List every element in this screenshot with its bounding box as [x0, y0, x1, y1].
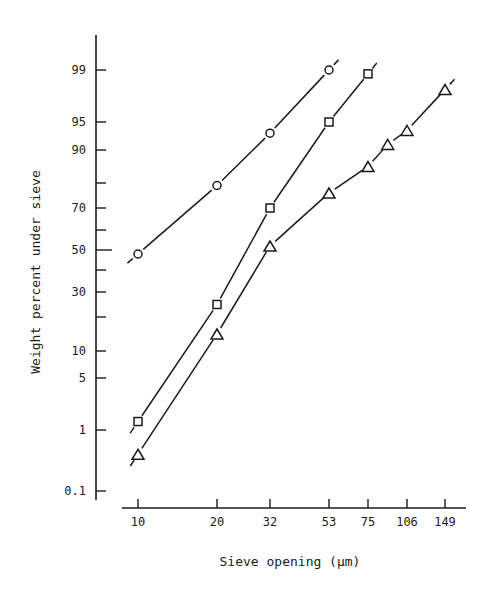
triangle-marker-icon: [264, 241, 276, 251]
x-tick-label: 10: [131, 515, 145, 529]
series-segment: [274, 128, 325, 202]
series-segment: [222, 138, 265, 180]
circle-marker-icon: [134, 250, 142, 258]
series-circle: [127, 60, 338, 263]
circle-marker-icon: [213, 182, 221, 190]
square-marker-icon: [266, 204, 274, 212]
x-tick-label: 75: [361, 515, 375, 529]
triangle-marker-icon: [211, 329, 223, 339]
series-segment: [335, 170, 362, 189]
triangle-marker-icon: [401, 125, 413, 135]
circle-marker-icon: [325, 66, 333, 74]
x-axis-title: Sieve opening (μm): [220, 554, 361, 569]
series-segment: [142, 340, 213, 449]
series-segment: [275, 198, 324, 242]
y-axis-title: Weight percent under sieve: [28, 170, 43, 374]
probability-chart: 0.11510305070909599 1020325375106149 Wei…: [0, 0, 488, 600]
series-triangle: [130, 79, 454, 466]
y-tick-label: 10: [72, 344, 86, 358]
y-tick-label: 1: [79, 423, 86, 437]
x-tick-label: 53: [322, 515, 336, 529]
circle-marker-icon: [266, 129, 274, 137]
x-tick-label: 20: [210, 515, 224, 529]
series-extension: [372, 63, 376, 68]
y-tick-label: 5: [79, 371, 86, 385]
y-axis: 0.11510305070909599: [64, 35, 112, 500]
series-extension: [334, 60, 339, 65]
series-segment: [142, 310, 213, 415]
x-tick-label: 32: [263, 515, 277, 529]
y-tick-label: 70: [72, 201, 86, 215]
series-extension: [130, 427, 134, 433]
y-tick-label: 30: [72, 285, 86, 299]
series-layer: [127, 60, 454, 466]
series-segment: [412, 95, 440, 126]
series-segment: [373, 150, 383, 162]
square-marker-icon: [134, 418, 142, 426]
triangle-marker-icon: [382, 139, 394, 149]
series-extension: [127, 259, 132, 264]
y-tick-label: 99: [72, 63, 86, 77]
square-marker-icon: [213, 301, 221, 309]
triangle-marker-icon: [323, 188, 335, 198]
triangle-marker-icon: [132, 449, 144, 459]
x-tick-label: 149: [434, 515, 456, 529]
y-tick-label: 50: [72, 243, 86, 257]
y-tick-label: 95: [72, 115, 86, 129]
series-extension: [130, 460, 134, 466]
triangle-marker-icon: [439, 85, 451, 95]
y-tick-label: 0.1: [64, 484, 86, 498]
series-segment: [220, 214, 266, 298]
square-marker-icon: [364, 70, 372, 78]
x-tick-label: 106: [396, 515, 418, 529]
series-segment: [275, 75, 324, 128]
series-segment: [333, 79, 363, 116]
series-extension: [450, 79, 455, 84]
x-axis: 1020325375106149: [122, 499, 466, 529]
series-segment: [221, 252, 267, 328]
y-tick-label: 90: [72, 143, 86, 157]
series-square: [130, 63, 377, 433]
square-marker-icon: [325, 118, 333, 126]
series-segment: [143, 190, 211, 249]
triangle-marker-icon: [362, 162, 374, 172]
